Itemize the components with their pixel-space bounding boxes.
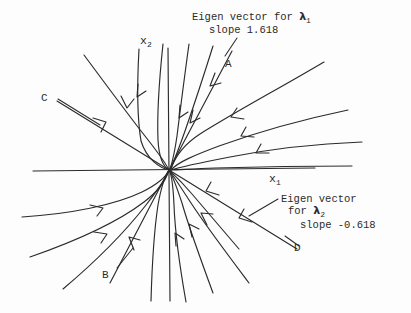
curve-label-c: C (41, 92, 48, 105)
eigen1-line2: slope 1.618 (209, 24, 311, 36)
arrow-ll-1 (90, 205, 103, 216)
curve-label-a: A (225, 58, 232, 71)
arrow-lr-1 (201, 213, 213, 225)
arrow-ul-2 (137, 84, 146, 97)
trajectory-dn-1 (151, 170, 169, 301)
trajectory-ur-1 (171, 62, 324, 169)
x1-axis-label: x1 (269, 172, 281, 186)
x1-axis-label-text: x (269, 172, 276, 185)
eigen2-line3: slope -0.618 (300, 219, 376, 231)
curve-label-d: D (294, 242, 301, 255)
lambda2-subscript: 2 (320, 210, 325, 219)
lambda1-subscript: 1 (306, 16, 311, 25)
leader-B (117, 248, 133, 268)
arrow-eigen2-lower-2 (206, 182, 219, 195)
eigen2-line2-prefix: for (288, 205, 313, 217)
x2-axis (168, 48, 170, 301)
arrow-ll-2 (94, 232, 107, 243)
x2-axis-label: x2 (140, 34, 152, 48)
leader-C (58, 99, 100, 125)
eigen1-line1: Eigen vector for (192, 11, 299, 23)
phase-plane-canvas: .tr { fill:none; stroke:#2b2b2b; stroke-… (0, 0, 411, 313)
curve-label-b: B (102, 269, 109, 282)
eigenvector-lambda1-annotation: Eigen vector for λ1slope 1.618 (192, 11, 311, 36)
arrow-dn-3 (189, 224, 199, 237)
trajectory-up-1 (170, 46, 213, 170)
leader-eigen2 (249, 199, 278, 216)
trajectory-lr-1 (169, 170, 249, 283)
arrow-ur-2 (241, 127, 254, 137)
eigen2-line1: Eigen vector (281, 193, 357, 205)
eigenvector-lambda2-annotation: Eigen vectorfor λ2slope -0.618 (281, 193, 376, 232)
phase-portrait-figure: .tr { fill:none; stroke:#2b2b2b; stroke-… (0, 0, 411, 313)
trajectory-up-3 (158, 44, 169, 170)
x2-axis-label-subscript: 2 (147, 40, 152, 49)
trajectory-ul-2 (138, 49, 169, 170)
arrow-ul-1 (121, 96, 134, 108)
trajectory-lr-2 (169, 170, 239, 249)
trajectory-ul-1 (84, 55, 169, 170)
trajectory-ll-1 (22, 170, 169, 217)
x1-axis-label-subscript: 1 (276, 178, 281, 187)
eigenline-lambda1-upper (169, 51, 232, 170)
x2-axis-label-text: x (140, 34, 147, 47)
